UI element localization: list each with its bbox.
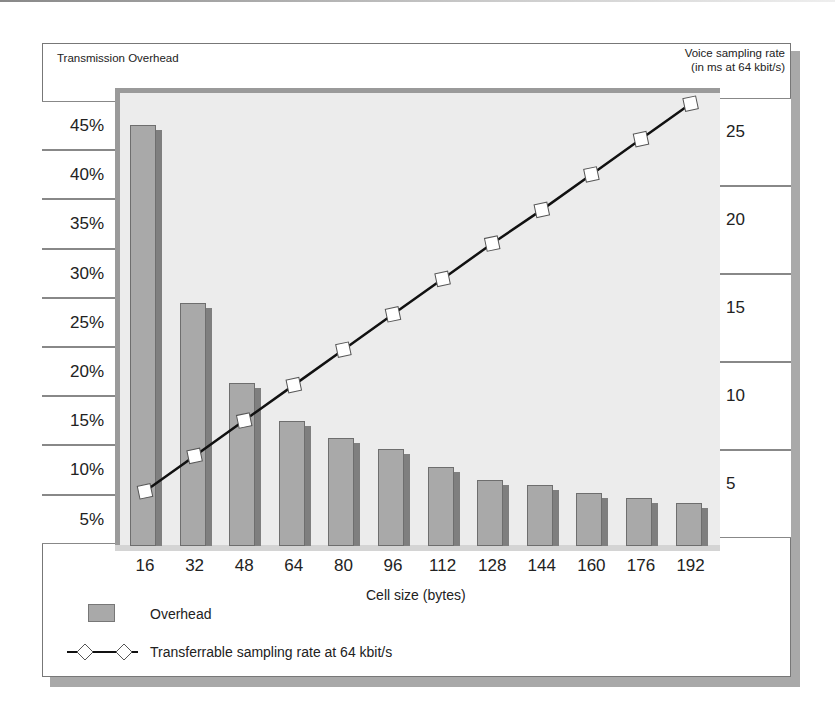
diamond-marker-icon	[137, 484, 152, 499]
x-axis-tick-label: 64	[274, 556, 314, 576]
x-axis-tick-label: 48	[224, 556, 264, 576]
diamond-marker-icon	[385, 307, 400, 322]
diamond-marker-icon	[236, 413, 251, 428]
diamond-marker-icon	[534, 202, 549, 217]
x-axis-tick-label: 192	[671, 556, 711, 576]
x-axis-tick-label: 128	[472, 556, 512, 576]
x-axis-tick-label: 32	[175, 556, 215, 576]
legend-line-label: Transferrable sampling rate at 64 kbit/s	[150, 644, 392, 660]
x-axis-tick-label: 96	[373, 556, 413, 576]
x-axis-tick-label: 112	[423, 556, 463, 576]
diamond-marker-icon	[584, 167, 599, 182]
x-axis-title: Cell size (bytes)	[366, 587, 466, 603]
diamond-marker-icon	[286, 377, 301, 392]
diamond-marker-icon	[484, 236, 499, 251]
legend-bar-label: Overhead	[150, 606, 211, 622]
line-series	[0, 0, 835, 717]
diamond-marker-icon	[435, 271, 450, 286]
x-axis-tick-label: 176	[621, 556, 661, 576]
legend-bar-swatch-icon	[88, 604, 115, 622]
x-axis-tick-label: 144	[522, 556, 562, 576]
x-axis-tick-label: 80	[323, 556, 363, 576]
x-axis-tick-label: 160	[571, 556, 611, 576]
diamond-marker-icon	[633, 131, 648, 146]
diamond-marker-icon	[336, 342, 351, 357]
x-axis-tick-label: 16	[125, 556, 165, 576]
diamond-marker-icon	[683, 96, 698, 111]
diamond-marker-icon	[187, 448, 202, 463]
